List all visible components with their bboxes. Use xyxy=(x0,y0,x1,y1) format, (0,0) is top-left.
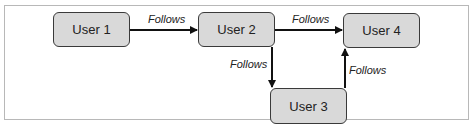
node-label: User 2 xyxy=(217,22,255,37)
edge-label-user2-user3: Follows xyxy=(230,58,267,70)
node-user4[interactable]: User 4 xyxy=(343,13,420,48)
node-label: User 3 xyxy=(289,99,327,114)
edge-label-user3-user4: Follows xyxy=(349,64,386,76)
node-user1[interactable]: User 1 xyxy=(53,12,130,47)
edge-label-user2-user4: Follows xyxy=(292,13,329,25)
edge-label-user1-user2: Follows xyxy=(148,13,185,25)
node-user3[interactable]: User 3 xyxy=(270,88,347,124)
node-label: User 4 xyxy=(362,23,400,38)
node-user2[interactable]: User 2 xyxy=(198,12,275,47)
node-label: User 1 xyxy=(72,22,110,37)
